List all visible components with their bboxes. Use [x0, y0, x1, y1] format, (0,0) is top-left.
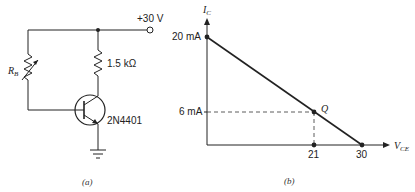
saturation-point: [205, 35, 210, 40]
q-point: [312, 110, 317, 115]
supply-terminal: [147, 27, 153, 33]
x-axis-label: VCE: [394, 140, 410, 153]
ground-icon: [90, 150, 106, 158]
y-tick-label-6ma: 6 mA: [179, 106, 203, 117]
x-tick-label-21: 21: [308, 149, 320, 160]
caption-a: (a): [82, 177, 93, 187]
y-tick-label-20ma: 20 mA: [172, 31, 201, 42]
q-point-label: Q: [321, 103, 329, 114]
load-line-graph: IC VCE 20 mA 6 mA 21 30 Q (b): [172, 4, 410, 186]
figure-canvas: +30 V RB 1.5 kΩ 2N4401 (a): [0, 0, 415, 192]
y-axis-label: IC: [202, 4, 211, 17]
transistor-label: 2N4401: [107, 115, 142, 126]
arrowhead-icon: [33, 60, 38, 65]
cutoff-point: [360, 143, 365, 148]
caption-b: (b): [284, 176, 295, 186]
rb-label: RB: [7, 65, 19, 78]
rc-resistor: [94, 50, 102, 76]
vce-q-point: [312, 143, 317, 148]
supply-label: +30 V: [137, 13, 164, 24]
emitter-arrow-icon: [92, 119, 98, 124]
transistor-collector-lead: [84, 96, 98, 105]
x-axis-arrow-icon: [383, 142, 390, 148]
y-axis-arrow-icon: [204, 18, 210, 25]
load-line: [207, 37, 362, 145]
circuit-schematic: +30 V RB 1.5 kΩ 2N4401 (a): [7, 13, 164, 187]
rc-label: 1.5 kΩ: [107, 58, 137, 69]
x-tick-label-30: 30: [356, 149, 368, 160]
